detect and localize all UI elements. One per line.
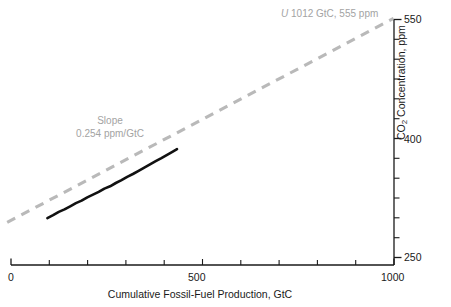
y-tick-label-250: 250 bbox=[404, 252, 422, 263]
chart-plot-area bbox=[0, 0, 451, 307]
y-axis-title-post: Concentration, ppm bbox=[395, 25, 407, 120]
slope-annotation-line2: 0.254 ppm/GtC bbox=[55, 128, 165, 141]
slope-annotation-line1: Slope bbox=[55, 115, 165, 128]
endpoint-annotation: U 1012 GtC, 555 ppm bbox=[281, 8, 378, 21]
y-axis-title-pre: CO bbox=[395, 124, 407, 140]
x-axis-title: Cumulative Fossil-Fuel Production, GtC bbox=[0, 289, 400, 300]
observed-data-line bbox=[47, 149, 177, 218]
x-tick-label-0: 0 bbox=[8, 272, 14, 283]
chart-figure: 0 500 1000 550 400 250 Cumulative Fossil… bbox=[0, 0, 451, 307]
y-axis-title: CO2 Concentration, ppm bbox=[396, 25, 409, 140]
y-axis-title-subscript: 2 bbox=[400, 120, 409, 124]
x-tick-label-1000: 1000 bbox=[381, 272, 404, 283]
slope-annotation: Slope 0.254 ppm/GtC bbox=[55, 115, 165, 140]
y-tick-label-550: 550 bbox=[404, 14, 422, 25]
x-tick-label-500: 500 bbox=[188, 272, 206, 283]
endpoint-annotation-text: 1012 GtC, 555 ppm bbox=[288, 8, 378, 19]
